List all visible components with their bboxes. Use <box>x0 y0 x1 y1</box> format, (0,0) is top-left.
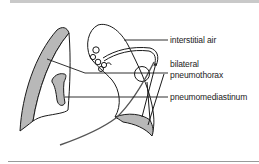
left-lung <box>20 28 70 131</box>
right-lung <box>88 24 158 136</box>
lung-illustration <box>0 0 259 164</box>
label-pneumomediastinum: pneumomediastinum <box>170 93 247 102</box>
pneumothorax-markers <box>142 63 164 125</box>
label-bilateral: bilateral <box>170 60 199 69</box>
bottom-divider <box>8 161 259 162</box>
label-interstitial-air: interstitial air <box>170 36 216 45</box>
label-pneumothorax: pneumothorax <box>170 71 223 80</box>
